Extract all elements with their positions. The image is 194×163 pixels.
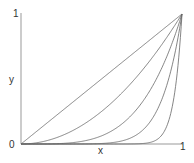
y-tick-top: 1 xyxy=(13,9,19,19)
chart-canvas xyxy=(0,0,194,163)
curve-1 xyxy=(21,14,182,144)
x-axis-label: x xyxy=(98,146,103,156)
x-tick-right: 1 xyxy=(180,142,186,152)
origin-tick: 0 xyxy=(9,140,15,150)
y-axis-label: y xyxy=(9,75,14,85)
curves xyxy=(21,14,182,144)
